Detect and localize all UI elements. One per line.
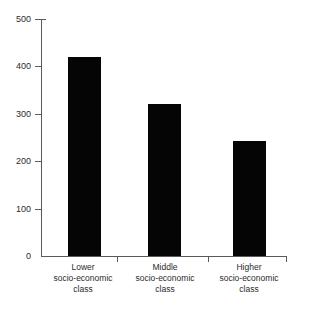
y-tick-label-0: 0	[0, 252, 31, 261]
x-category-label-higher-line1: Higher	[193, 262, 305, 273]
x-axis-line	[41, 256, 287, 257]
y-tick-label-100: 100	[0, 205, 31, 214]
x-category-label-higher-line3: class	[193, 284, 305, 295]
x-category-label-higher-line2: socio-economic	[193, 273, 305, 284]
bar-higher-socio-economic-class[interactable]	[233, 141, 266, 256]
bar-lower-socio-economic-class[interactable]	[68, 57, 101, 256]
y-tick-label-200: 200	[0, 157, 31, 166]
y-tick-label-500: 500	[0, 15, 31, 24]
y-tick-label-400: 400	[0, 62, 31, 71]
x-category-label-higher: Higher socio-economic class	[193, 262, 305, 295]
bars-layer	[41, 19, 287, 256]
bar-chart-figure: 500 400 300 200 100 0 Lower socio-econom…	[0, 0, 309, 312]
bar-middle-socio-economic-class[interactable]	[148, 104, 181, 256]
y-tick-label-300: 300	[0, 110, 31, 119]
